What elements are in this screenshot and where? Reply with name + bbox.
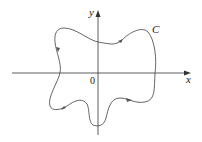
y-axis-label: y [88, 6, 94, 18]
y-axis-arrow-icon [96, 10, 101, 17]
x-axis-label: x [185, 73, 191, 85]
diagram-canvas: y x 0 C [0, 0, 202, 142]
direction-arrow-icon [126, 98, 132, 102]
curve-c [49, 28, 155, 126]
curve-label: C [152, 23, 160, 35]
origin-label: 0 [90, 75, 95, 86]
